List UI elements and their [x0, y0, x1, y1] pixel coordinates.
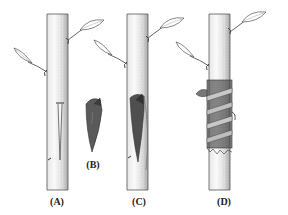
panel-d-wrap — [196, 80, 235, 154]
grafting-illustration: (A) (B) (C) (D) — [0, 0, 288, 215]
panel-label-d: (D) — [217, 196, 231, 207]
panel-label-c: (C) — [132, 196, 146, 207]
panel-label-a: (A) — [50, 196, 64, 207]
panel-label-b: (B) — [86, 159, 99, 170]
panel-c-stem — [94, 14, 184, 190]
panel-b-scion — [86, 98, 102, 152]
illustration-canvas — [0, 0, 288, 215]
